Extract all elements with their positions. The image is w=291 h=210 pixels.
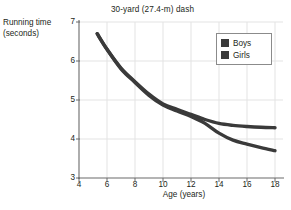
plot-area	[0, 0, 291, 210]
legend-swatch-girls-icon	[221, 51, 229, 59]
x-axis-label: Age (years)	[78, 190, 290, 199]
legend-label-boys: Boys	[233, 39, 251, 48]
legend-item-girls: Girls	[221, 49, 267, 61]
legend-item-boys: Boys	[221, 37, 267, 49]
chart-figure: 30-yard (27.4-m) dash Running time (seco…	[0, 0, 291, 210]
legend: Boys Girls	[216, 33, 272, 65]
legend-label-girls: Girls	[233, 51, 250, 60]
legend-swatch-boys-icon	[221, 39, 229, 47]
